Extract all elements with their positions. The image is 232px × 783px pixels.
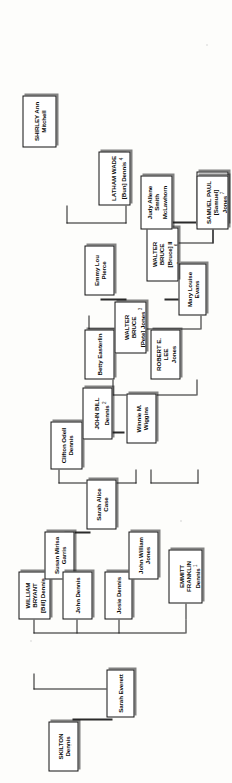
scan-artifact: [180, 520, 182, 522]
node-mary-louise-evans[interactable]: Mary Louise Evans: [178, 263, 206, 315]
node-index: 3: [137, 307, 142, 309]
family-tree-chart: SKILTON Dennis Sarah Everett WILLIAM BRY…: [0, 0, 232, 783]
connector: [185, 603, 186, 619]
connector: [125, 205, 126, 223]
connector: [33, 632, 185, 633]
node-john-william-jones[interactable]: John William Jones: [128, 531, 158, 579]
node-label: Susan Mirisa Garris: [52, 537, 66, 574]
connector: [185, 619, 186, 633]
node-judy-allene-smith-mclawhorn[interactable]: Judy Allene Smith McLawhorn: [140, 175, 172, 229]
node-label: JOHN BILL Dennis2: [85, 390, 109, 436]
connector-marriage: [172, 221, 196, 223]
node-label: WALTER BRUCE [Bruce] II Jones6: [146, 230, 178, 278]
node-winnie-wiggins[interactable]: Winnie M. Wiggins: [126, 393, 156, 443]
scan-artifact: [206, 44, 208, 46]
connector: [150, 469, 151, 483]
node-label: SAMUEL PAUL [Samuel] Jones7: [197, 178, 228, 226]
node-label: WALTER BRUCE [Pete] Jones3: [115, 304, 146, 350]
connector: [33, 619, 34, 633]
node-label: Josie Dennis: [114, 577, 121, 614]
node-label: Clifton Odell Dennis: [59, 427, 73, 462]
connector: [150, 482, 198, 483]
node-index: 1: [192, 564, 197, 566]
connector: [200, 315, 201, 329]
connector: [135, 469, 136, 483]
node-label: WILLIAM BRYANT [Bill] Dennis: [23, 574, 45, 616]
node-label-text: WALTER BRUCE [Pete] Jones: [122, 311, 145, 347]
node-shirley-ann-mitchell[interactable]: SHIRLEY Ann Mitchell: [22, 95, 56, 147]
node-clifton-odell-dennis[interactable]: Clifton Odell Dennis: [50, 421, 82, 469]
connector: [88, 315, 89, 329]
connector: [196, 379, 197, 395]
node-index: 6: [173, 243, 178, 245]
node-label: Sarah Everett: [116, 674, 123, 713]
node-label: SHIRLEY Ann Mitchell: [32, 101, 46, 140]
node-robert-e-lee-jones[interactable]: ROBERT E. LEE Jones: [150, 329, 180, 379]
node-latham-wade-dennis[interactable]: LATHAM WADE [Bun] Dennis4: [98, 151, 130, 205]
tree-canvas: SKILTON Dennis Sarah Everett WILLIAM BRY…: [0, 0, 232, 783]
node-index: 7: [219, 191, 224, 193]
connector-marriage: [72, 718, 112, 720]
node-label: SKILTON Dennis: [56, 724, 70, 768]
node-walter-bruce-pete-jones[interactable]: WALTER BRUCE [Pete] Jones3: [114, 301, 146, 353]
node-label: LATHAM WADE [Bun] Dennis4: [102, 156, 126, 201]
connector: [58, 469, 59, 483]
node-index: 2: [101, 401, 106, 403]
node-samuel-paul-jones[interactable]: SAMUEL PAUL [Samuel] Jones7: [196, 175, 228, 229]
node-label: Mary Louise Evans: [185, 266, 199, 312]
node-index: 4: [118, 157, 123, 159]
node-emmy-lou-pierce[interactable]: Emmy Lou Pierce: [84, 245, 114, 295]
scan-artifact: [70, 744, 72, 746]
node-label: Emmy Lou Pierce: [92, 248, 106, 292]
connector: [76, 619, 77, 633]
scan-artifact: [30, 640, 32, 642]
connector: [197, 469, 198, 483]
node-label: Winnie M. Wiggins: [134, 396, 148, 440]
connector: [33, 673, 34, 689]
node-label-text: SAMUEL PAUL [Samuel] Jones: [204, 181, 227, 224]
node-label: EMMITT FRANKLIN Dennis1: [170, 552, 201, 600]
connector: [66, 222, 126, 223]
node-label: John William Jones: [136, 537, 150, 574]
node-label-text: LATHAM WADE [Bun] Dennis: [109, 156, 125, 201]
node-label: Judy Allene Smith McLawhorn: [145, 178, 167, 226]
node-john-bill-dennis[interactable]: JOHN BILL Dennis2: [82, 387, 112, 439]
node-label: Sarah Alice Case: [94, 482, 108, 526]
node-label: John Dennis: [73, 577, 80, 613]
node-walter-bruce-ii-jones[interactable]: WALTER BRUCE [Bruce] II Jones6: [146, 227, 178, 281]
node-emmitt-franklin-dennis[interactable]: EMMITT FRANKLIN Dennis1: [168, 549, 202, 603]
connector-marriage: [100, 298, 126, 300]
connector: [118, 619, 119, 633]
node-label: Betty Easterlin: [95, 333, 102, 375]
node-skilton-dennis[interactable]: SKILTON Dennis: [48, 721, 78, 771]
node-betty-easterlin[interactable]: Betty Easterlin: [84, 329, 114, 379]
node-label: ROBERT E. LEE Jones: [154, 332, 176, 376]
rotated-chart-stage: SKILTON Dennis Sarah Everett WILLIAM BRY…: [0, 0, 232, 783]
node-john-dennis[interactable]: John Dennis: [62, 571, 92, 619]
node-sarah-alice-case[interactable]: Sarah Alice Case: [86, 479, 116, 529]
connector: [66, 205, 67, 223]
node-sarah-everett[interactable]: Sarah Everett: [106, 669, 134, 717]
